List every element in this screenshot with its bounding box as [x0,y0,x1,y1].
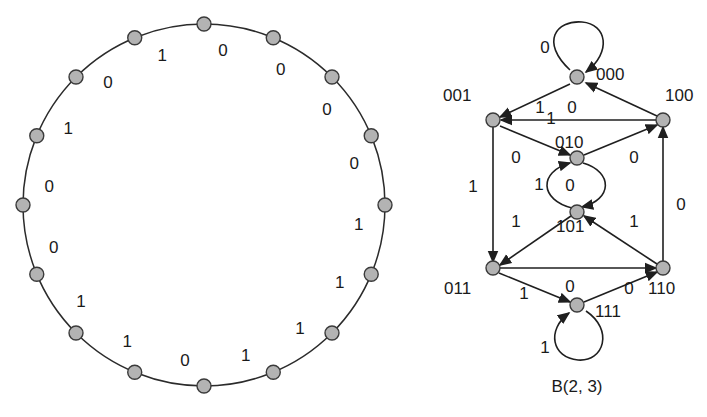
graph-node-011 [486,261,500,275]
graph-node-label-011: 011 [444,279,471,298]
graph-node-group [486,70,670,312]
graph-node-111 [570,298,584,312]
graph-node-label-101: 101 [556,217,584,236]
graph-node-001 [486,113,500,127]
graph-node-label-000: 000 [596,65,624,84]
edge-010-101 [582,163,605,207]
graph-edge-label: 1 [540,338,549,357]
graph-edge-label: 0 [567,98,576,117]
edge-010-100 [584,125,657,155]
edge-011-111 [499,273,570,302]
graph-edge-label: 1 [629,212,638,231]
figure-de-bruijn: 0000111101100101 [0,0,707,417]
graph-node-100 [656,113,670,127]
graph-node-label-010: 010 [555,133,583,152]
graph-edge-label: 0 [676,195,685,214]
graph-node-110 [656,261,670,275]
graph-edge-label: 0 [624,279,633,298]
graph-node-label-111: 111 [595,302,621,321]
graph-edge-label: 1 [468,177,477,196]
edge-100-000 [586,83,657,116]
graph-node-label-110: 110 [648,279,675,298]
graph-edge-label: 1 [511,212,520,231]
graph-edge-label: 0 [565,277,574,296]
graph-edge-label: 1 [519,284,528,303]
graph-node-label-001: 001 [443,86,471,105]
figure-caption: B(2, 3) [551,377,602,396]
graph-edge-label: 0 [540,38,549,57]
graph-edge-label: 1 [546,109,555,128]
graph-diagram-svg: 000001100010101011110111 011000110011010… [0,0,707,417]
graph-node-000 [570,70,584,84]
graph-edge-label: 1 [535,98,544,117]
graph-edge-label: 0 [565,176,574,195]
graph-node-label-100: 100 [665,86,693,105]
graph-edge-label: 1 [534,175,543,194]
graph-edge-label: 0 [511,148,520,167]
edge-110-101 [584,216,657,264]
graph-node-010 [570,151,584,165]
edge-111-110 [584,272,657,302]
graph-edge-label: 0 [629,148,638,167]
